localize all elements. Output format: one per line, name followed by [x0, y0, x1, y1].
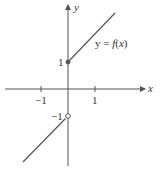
lower-branch-line [23, 119, 66, 163]
open-point [66, 114, 71, 119]
function-graph: y x −1 1 1 −1 y = f(x) [0, 0, 162, 171]
tick-label-x-1: 1 [92, 94, 98, 106]
tick-label-y-neg1: −1 [51, 110, 63, 122]
tick-label-y-1: 1 [58, 56, 64, 68]
closed-point [66, 60, 70, 64]
curve-label: y = f(x) [95, 37, 128, 50]
x-axis-label: x [147, 82, 153, 94]
tick-label-x-neg1: −1 [35, 94, 47, 106]
y-axis-label: y [73, 1, 79, 13]
